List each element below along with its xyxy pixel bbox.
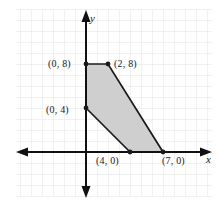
vertex-7-0	[161, 150, 166, 155]
coordinate-plane-figure: (0, 8) (2, 8) (0, 4) (4, 0) (7, 0) x y	[0, 0, 222, 217]
point-label-0-8: (0, 8)	[48, 58, 71, 69]
point-label-4-0: (4, 0)	[96, 155, 119, 166]
vertex-0-4	[84, 106, 89, 111]
point-label-0-4: (0, 4)	[46, 104, 69, 115]
x-axis-label: x	[206, 153, 211, 165]
point-label-7-0: (7, 0)	[162, 155, 185, 166]
vertex-0-8	[84, 62, 89, 67]
graph-canvas	[0, 0, 222, 217]
y-axis-label: y	[90, 12, 95, 24]
point-label-2-8: (2, 8)	[114, 58, 137, 69]
vertex-2-8	[106, 62, 111, 67]
vertex-4-0	[128, 150, 133, 155]
